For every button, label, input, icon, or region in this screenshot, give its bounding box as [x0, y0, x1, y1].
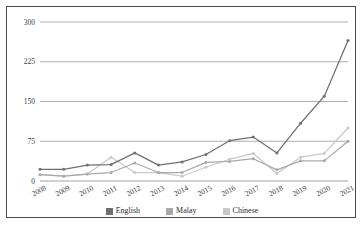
data-point-english-2020	[323, 95, 326, 98]
data-point-malay-2021	[347, 140, 350, 143]
x-tick-label: 2009	[54, 183, 72, 198]
x-tick-label: 2016	[220, 183, 238, 198]
data-point-malay-2010	[86, 173, 89, 176]
data-point-chinese-2018	[275, 172, 278, 175]
x-tick-label: 2013	[149, 183, 167, 198]
data-point-chinese-2012	[133, 171, 136, 174]
x-axis-tick-labels: 2008200920102011201220132014201520162017…	[30, 183, 356, 198]
x-tick-label: 2018	[267, 183, 285, 198]
data-point-malay-2014	[181, 171, 184, 174]
y-tick-label: 0	[31, 177, 35, 186]
x-tick-label: 2020	[314, 183, 332, 198]
data-point-english-2019	[299, 122, 302, 125]
data-point-chinese-2014	[181, 175, 184, 178]
chart-frame: 075150225300 200820092010201120122013201…	[6, 6, 356, 218]
legend-item-malay[interactable]: Malay	[166, 207, 196, 215]
data-point-malay-2016	[228, 160, 231, 163]
y-tick-label: 300	[24, 18, 36, 27]
data-point-english-2017	[252, 136, 255, 139]
data-point-english-2009	[62, 168, 65, 171]
data-point-english-2013	[157, 164, 160, 167]
x-tick-label: 2010	[77, 183, 95, 198]
series-line-chinese	[40, 128, 348, 176]
data-point-malay-2013	[157, 171, 160, 174]
data-point-malay-2015	[204, 161, 207, 164]
data-point-chinese-2021	[347, 127, 350, 130]
data-point-malay-2008	[39, 173, 42, 176]
x-tick-label: 2012	[125, 183, 143, 198]
legend-item-chinese[interactable]: Chinese	[223, 207, 259, 215]
legend-swatch-icon	[166, 208, 173, 215]
x-tick-label: 2015	[196, 183, 214, 198]
x-tick-label: 2017	[243, 183, 261, 198]
legend-item-english[interactable]: English	[106, 207, 140, 215]
series-line-english	[40, 41, 348, 170]
y-tick-label: 225	[24, 57, 36, 66]
x-tick-label: 2014	[172, 183, 190, 198]
data-point-english-2011	[110, 163, 113, 166]
y-tick-label: 150	[24, 97, 36, 106]
data-point-english-2015	[204, 153, 207, 156]
line-chart-plot: 075150225300 200820092010201120122013201…	[7, 7, 357, 219]
x-tick-label: 2019	[291, 183, 309, 198]
data-point-malay-2009	[62, 175, 65, 178]
y-tick-label: 75	[28, 137, 36, 146]
data-point-english-2010	[86, 164, 89, 167]
y-axis-tick-labels: 075150225300	[24, 18, 36, 186]
data-point-english-2012	[133, 151, 136, 154]
data-series-lines	[40, 41, 348, 177]
legend-label: Malay	[176, 207, 196, 215]
data-point-malay-2011	[110, 171, 113, 174]
legend-label: English	[116, 207, 140, 215]
legend-swatch-icon	[223, 208, 230, 215]
legend-label: Chinese	[233, 207, 259, 215]
data-point-english-2016	[228, 139, 231, 142]
data-point-chinese-2019	[299, 156, 302, 159]
data-point-chinese-2020	[323, 152, 326, 155]
data-point-english-2008	[39, 168, 42, 171]
legend-swatch-icon	[106, 208, 113, 215]
data-point-english-2021	[347, 39, 350, 42]
data-point-malay-2017	[252, 157, 255, 160]
data-point-chinese-2015	[204, 166, 207, 169]
data-point-chinese-2017	[252, 152, 255, 155]
x-tick-label: 2021	[338, 183, 356, 198]
chart-legend: EnglishMalayChinese	[7, 203, 357, 219]
data-point-chinese-2011	[110, 156, 113, 159]
x-tick-label: 2011	[101, 183, 118, 198]
data-point-malay-2020	[323, 159, 326, 162]
data-point-malay-2018	[275, 168, 278, 171]
data-point-english-2014	[181, 160, 184, 163]
data-point-english-2018	[275, 151, 278, 154]
data-point-malay-2012	[133, 161, 136, 164]
data-point-malay-2019	[299, 159, 302, 162]
